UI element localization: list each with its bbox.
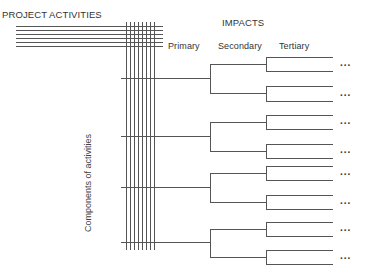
ellipsis-7: ... <box>340 223 351 233</box>
ellipsis-2: ... <box>340 88 351 98</box>
tertiary-column-header: Tertiary <box>279 41 309 51</box>
ellipsis-8: ... <box>340 251 351 261</box>
secondary-brackets <box>210 64 266 258</box>
ellipsis-5: ... <box>340 167 351 177</box>
ellipsis-6: ... <box>340 196 351 206</box>
ellipsis-1: ... <box>340 58 351 68</box>
ellipsis-4: ... <box>340 145 351 155</box>
project-activities-title: PROJECT ACTIVITIES <box>2 9 102 20</box>
secondary-column-header: Secondary <box>218 41 262 51</box>
primary-column-header: Primary <box>168 41 200 51</box>
tertiary-brackets <box>266 57 333 265</box>
components-of-activities-label: Components of activities <box>83 134 93 232</box>
impacts-title: IMPACTS <box>222 17 264 28</box>
activity-lines <box>16 27 163 47</box>
ellipsis-3: ... <box>340 116 351 126</box>
